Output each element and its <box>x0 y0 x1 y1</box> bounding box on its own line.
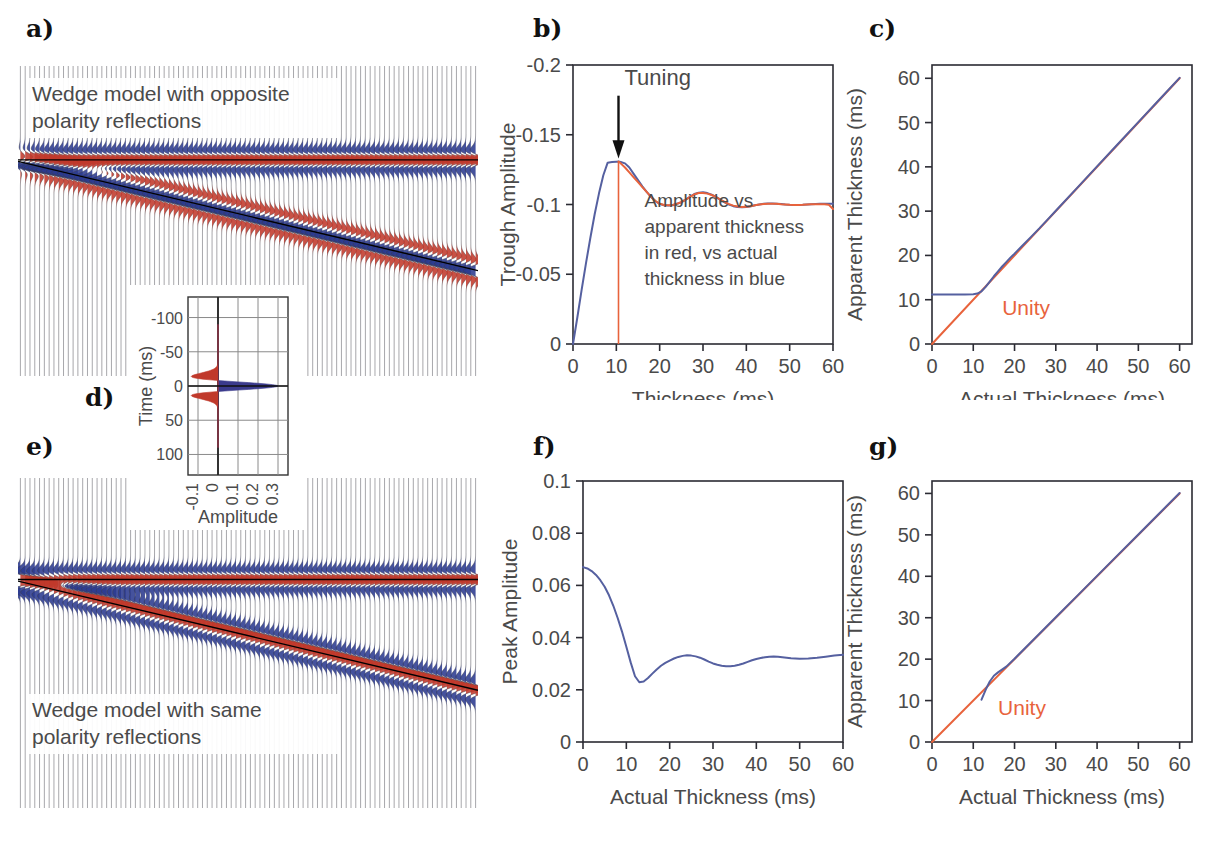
panel-b-svg: 01020304050600-0.05-0.1-0.15-0.2Thicknes… <box>495 50 855 400</box>
y-tick-label: 60 <box>898 482 920 504</box>
wiggle-peak-fill <box>375 66 387 376</box>
wiggle-trace-line <box>58 478 72 808</box>
wiggle-peak-fill <box>476 66 478 376</box>
panel-c-svg: 01020304050600102030405060Actual Thickne… <box>840 50 1215 400</box>
base-reflector-pick <box>18 161 478 270</box>
wiggle-trough-fill <box>401 66 413 376</box>
wiggle-peak-fill <box>64 478 72 808</box>
wiggle-trough-fill <box>339 66 351 376</box>
wiggle-peak-fill <box>404 478 416 808</box>
wiggle-trace-line <box>465 478 478 808</box>
wiggle-peak-fill <box>461 478 473 808</box>
panel-e-caption-line1: Wedge model with same <box>32 697 332 724</box>
wiggle-trace-line <box>387 66 412 376</box>
wiggle-peak-fill <box>456 478 468 808</box>
y-tick-label: 30 <box>898 607 920 629</box>
wiggle-peak-fill <box>380 66 392 376</box>
x-tick-label: 40 <box>745 753 767 775</box>
wiggle-trough-fill <box>425 66 437 376</box>
wiggle-peak-fill <box>452 66 464 376</box>
y-tick-label: -0.1 <box>527 194 561 216</box>
x-tick-label: 0 <box>567 355 578 377</box>
wiggle-trough-fill <box>377 66 389 376</box>
wiggle-peak-fill <box>370 66 382 376</box>
x-tick-label: 20 <box>1003 355 1025 377</box>
x-tick-label: 0 <box>926 355 937 377</box>
wiggle-trace-line <box>96 478 119 808</box>
panel-label-b: b) <box>533 14 562 43</box>
wiggle-trace-line <box>18 66 25 376</box>
panel-label-f: f) <box>533 432 556 461</box>
wiggle-peak-fill <box>432 66 444 376</box>
panel-d-ylabel: Time (ms) <box>136 346 156 426</box>
wiggle-peak-fill <box>442 478 454 808</box>
panel-d-ytick-label: 100 <box>156 446 183 463</box>
wiggle-trace-line <box>358 66 383 376</box>
y-tick-label: 0.06 <box>532 574 571 596</box>
panel-e-caption: Wedge model with same polarity reflectio… <box>26 694 338 754</box>
wiggle-peak-fill <box>365 66 377 376</box>
wiggle-peak-fill <box>466 478 478 808</box>
wiggle-trough-fill <box>382 66 394 376</box>
wiggle-peak-fill <box>54 478 61 808</box>
wiggle-trace-line <box>43 478 58 808</box>
wiggle-trace-line <box>367 66 392 376</box>
wiggle-trace-line <box>406 66 431 376</box>
wiggle-trough-fill <box>363 66 375 376</box>
wiggle-trace-line <box>391 66 416 376</box>
panel-g-apparent-thickness-chart: 01020304050600102030405060Actual Thickne… <box>840 466 1215 826</box>
unity-label: Unity <box>998 696 1046 719</box>
wiggle-trace-line <box>377 66 402 376</box>
wiggle-peak-fill <box>437 66 449 376</box>
wiggle-trough-fill <box>96 478 107 808</box>
wiggle-trace-line <box>18 478 48 808</box>
wiggle-trace-line <box>73 478 93 808</box>
y-tick-label: 0.1 <box>543 470 571 492</box>
wiggle-peak-fill <box>428 66 440 376</box>
wiggle-trace-line <box>454 66 478 376</box>
wiggle-trough-fill <box>18 66 25 376</box>
panel_f-frame <box>583 481 843 742</box>
wiggle-peak-fill <box>370 478 382 808</box>
wiggle-peak-fill <box>97 478 109 808</box>
wiggle-trough-fill <box>387 66 399 376</box>
panel-d-xtick-label: 0 <box>204 483 221 492</box>
y-tick-label: 50 <box>898 524 920 546</box>
x-tick-label: 0 <box>926 753 937 775</box>
wiggle-trough-fill <box>70 478 78 808</box>
wiggle-trace-line <box>449 66 474 376</box>
series-apparent-thickness <box>982 493 1180 700</box>
wiggle-peak-fill <box>413 478 425 808</box>
panel-d-ytick-label: 50 <box>165 412 183 429</box>
wiggle-peak-fill <box>476 478 478 808</box>
wiggle-peak-fill <box>35 478 53 808</box>
wiggle-trough-fill <box>77 478 87 808</box>
wiggle-peak-fill <box>375 478 387 808</box>
panel-d-ytick-label: -100 <box>151 310 183 327</box>
x-tick-label: 40 <box>735 355 757 377</box>
wiggle-trace-line <box>425 66 450 376</box>
wiggle-trough-fill <box>449 66 461 376</box>
y-tick-label: 0 <box>560 731 571 753</box>
panel-label-e: e) <box>26 432 54 461</box>
y-tick-label: -0.15 <box>515 124 561 146</box>
unity-label: Unity <box>1002 296 1050 319</box>
wiggle-peak-fill <box>452 478 464 808</box>
wiggle-peak-fill <box>456 66 468 376</box>
wiggle-peak-fill <box>404 66 416 376</box>
wiggle-trough-fill <box>32 478 40 808</box>
wiggle-trough-fill <box>86 478 97 808</box>
wiggle-peak-fill <box>361 66 373 376</box>
wiggle-trough-fill <box>26 478 35 808</box>
x-tick-label: 30 <box>1045 355 1067 377</box>
wiggle-peak-fill <box>346 478 358 808</box>
wiggle-trough-fill <box>439 66 451 376</box>
panel-f-peak-amplitude-chart: 010203040506000.020.040.060.080.1Actual … <box>495 466 855 826</box>
wiggle-peak-fill <box>49 478 58 808</box>
x-tick-label: 60 <box>1168 355 1190 377</box>
x-tick-label: 10 <box>962 753 984 775</box>
wiggle-trace-line <box>430 66 455 376</box>
wiggle-trace-line <box>86 478 109 808</box>
wiggle-peak-fill <box>409 478 421 808</box>
wiggle-trough-fill <box>43 478 49 808</box>
